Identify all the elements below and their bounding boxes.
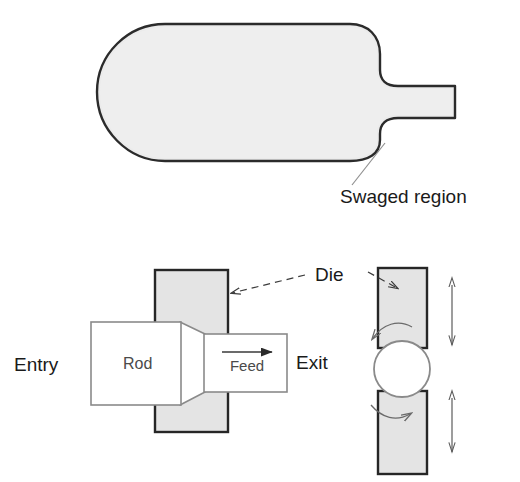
side-view-group: Feed Rod Entry Exit [14,270,328,432]
rod-cross-section-circle [374,341,430,397]
feed-label: Feed [230,357,264,374]
die-bar-lower [378,391,427,474]
entry-label: Entry [14,354,59,375]
workpiece-shading [100,27,452,158]
end-view-group [368,268,452,474]
swaged-region-label: Swaged region [340,186,467,207]
diagram-canvas: Swaged region Feed Rod Entry Exit Die [0,0,520,482]
die-leader-line-left [232,275,305,293]
rod-label: Rod [123,355,152,372]
rod-taper-section [180,322,205,405]
exit-label: Exit [296,352,328,373]
die-bar-upper [378,268,427,348]
swaging-diagram-figure: Swaged region Feed Rod Entry Exit Die [0,0,520,482]
die-label: Die [315,264,344,285]
top-workpiece-group: Swaged region [97,24,467,207]
